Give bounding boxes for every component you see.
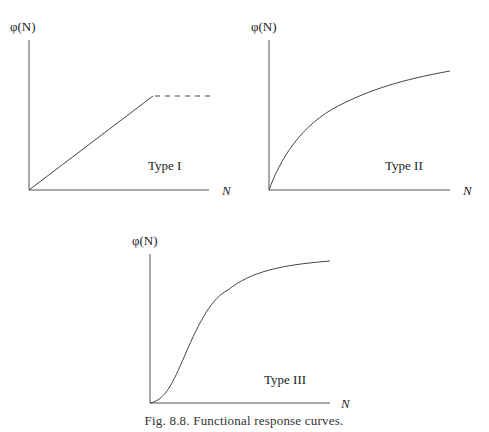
saturating-curve [269,71,450,190]
figure-canvas: φ(N) N Type I φ(N) N Type II φ(N) N Type… [0,0,489,432]
linear-curve [29,96,153,190]
panel-type-2: φ(N) N Type II [251,19,473,198]
x-axis-label: N [340,396,351,411]
type-label: Type III [264,372,306,387]
x-axis-label: N [462,183,473,198]
figure-caption: Fig. 8.8. Functional response curves. [145,413,344,428]
panel-type-1: φ(N) N Type I [10,19,232,198]
y-axis-label: φ(N) [251,19,277,34]
y-axis-label: φ(N) [10,19,36,34]
panel-type-3: φ(N) N Type III [132,233,351,411]
type-label: Type I [148,158,181,173]
y-axis-label: φ(N) [132,233,158,248]
type-label: Type II [385,158,423,173]
x-axis-label: N [221,183,232,198]
